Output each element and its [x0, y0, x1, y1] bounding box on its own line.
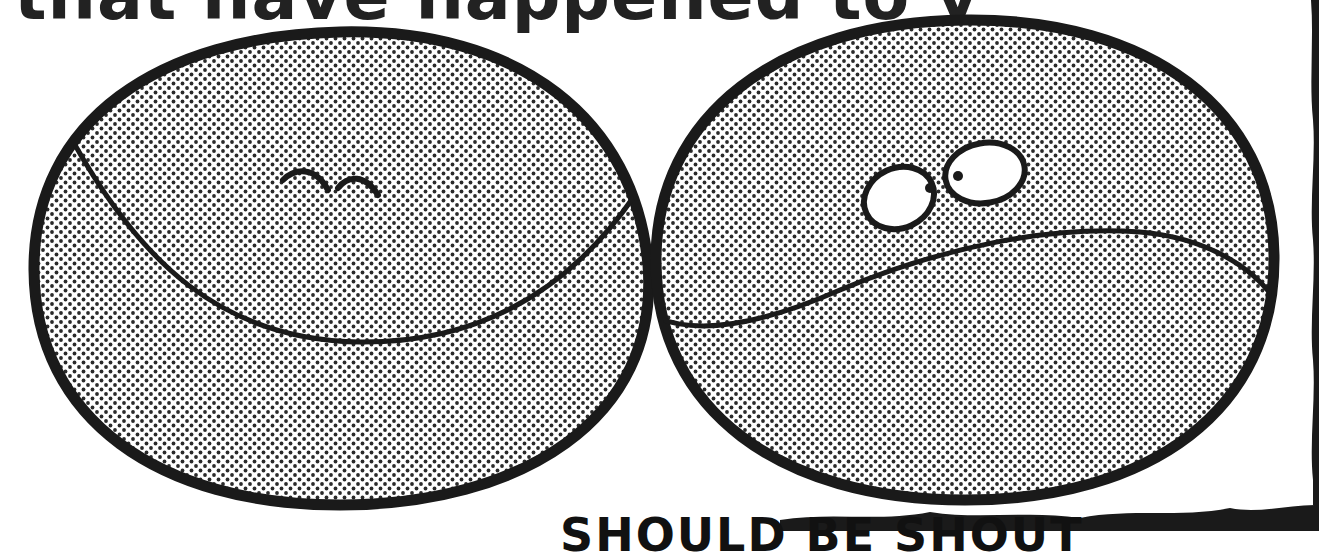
torn-edge-right	[1311, 0, 1319, 505]
happy-ball	[34, 32, 649, 505]
worried-ball	[656, 20, 1275, 500]
bottom-caption-text: SHOULD BE SHOUT	[560, 508, 1084, 556]
pupil-left	[925, 183, 935, 193]
pupil-right	[953, 171, 963, 181]
